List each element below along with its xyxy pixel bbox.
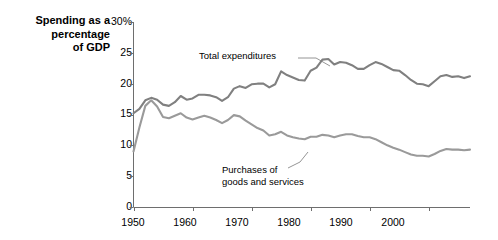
- line-total-expenditures: [134, 59, 471, 113]
- y-axis-ticks: [130, 23, 134, 208]
- line-purchases-of-goods-and-services: [134, 100, 471, 156]
- axes: [130, 22, 471, 211]
- series-lines: [134, 59, 471, 156]
- plot-area: [0, 0, 498, 240]
- leader-line-purchases: [288, 152, 308, 168]
- chart-figure: Spending as a percentage of GDP 30% 25 2…: [0, 0, 498, 240]
